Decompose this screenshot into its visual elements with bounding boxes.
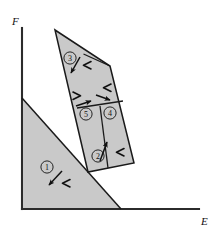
- region-4-number: 4: [108, 109, 112, 118]
- region-diagram-svg: F E 1 2: [0, 0, 215, 232]
- region-1-number: 1: [45, 163, 49, 172]
- x-axis-label: E: [200, 215, 208, 227]
- region-2-number: 2: [96, 152, 100, 161]
- region-3-number: 3: [68, 54, 72, 63]
- region-5-number: 5: [84, 110, 88, 119]
- y-axis-label: F: [11, 15, 19, 27]
- figure-container: F E 1 2: [0, 0, 215, 232]
